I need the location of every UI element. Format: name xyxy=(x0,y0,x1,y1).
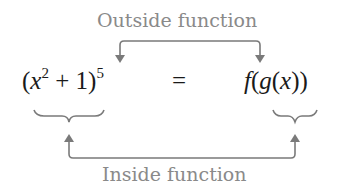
function-f: f xyxy=(244,67,251,94)
paren-open-2: ( xyxy=(272,67,280,94)
composite-function-diagram: Outside function (x2 + 1)5 = f(g(x)) Ins… xyxy=(0,0,337,192)
inside-arrow-icon xyxy=(69,140,295,158)
left-expression: (x2 + 1)5 xyxy=(22,67,104,95)
function-g: g xyxy=(259,67,272,94)
right-underbrace-icon xyxy=(273,110,317,122)
variable-x-inner: x xyxy=(280,67,291,94)
inside-arrowhead-left-icon xyxy=(64,134,74,142)
inside-function-label: Inside function xyxy=(102,163,247,185)
plus-one-close: + 1) xyxy=(49,67,96,94)
outside-arrowhead-left-icon xyxy=(115,55,125,63)
outside-arrowhead-right-icon xyxy=(255,55,265,63)
exponent-2: 2 xyxy=(41,65,49,81)
left-underbrace-icon xyxy=(34,110,104,122)
outside-arrow-icon xyxy=(120,41,260,57)
paren-close: )) xyxy=(291,67,308,94)
equals-sign: = xyxy=(172,67,186,95)
inside-arrowhead-right-icon xyxy=(290,134,300,142)
exponent-5: 5 xyxy=(96,65,104,81)
right-expression: f(g(x)) xyxy=(244,67,308,95)
variable-x: x xyxy=(30,67,41,94)
